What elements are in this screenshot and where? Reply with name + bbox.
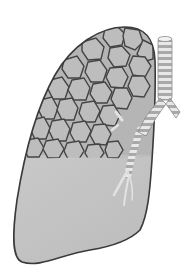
lung-drawing — [0, 0, 191, 280]
lung-illustration — [0, 0, 191, 280]
